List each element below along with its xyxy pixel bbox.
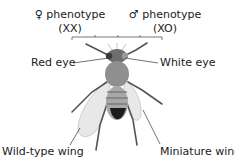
label-red-eye: Red eye xyxy=(31,57,75,69)
label-miniature-wing: Miniature wing xyxy=(160,146,235,158)
label-wild-type-wing: Wild-type wing xyxy=(2,146,84,158)
fly-diagram xyxy=(0,0,235,162)
bracket xyxy=(72,35,162,40)
label-white-eye: White eye xyxy=(160,57,216,69)
fly-thorax xyxy=(105,61,129,87)
